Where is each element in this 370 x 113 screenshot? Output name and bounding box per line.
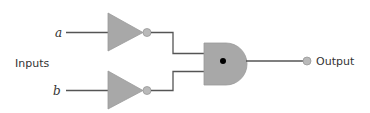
logic-circuit-diagram: a b Inputs Output (0, 0, 370, 113)
not-gate-b (108, 71, 151, 109)
wire-not-a-to-and (151, 33, 205, 54)
output-label: Output (316, 55, 355, 68)
and-gate-body-icon (204, 43, 247, 85)
inputs-label: Inputs (15, 57, 49, 70)
not-gate-a-triangle-icon (108, 13, 143, 51)
and-gate-dot-icon (220, 58, 226, 64)
wire-not-b-to-and (151, 72, 205, 91)
input-a-label: a (55, 26, 62, 40)
not-gate-b-triangle-icon (108, 71, 143, 109)
not-gate-b-bubble-icon (143, 87, 151, 95)
input-b-label: b (53, 84, 61, 98)
not-gate-a (108, 13, 151, 51)
output-terminal-icon (303, 57, 311, 65)
and-gate (204, 43, 247, 85)
not-gate-a-bubble-icon (143, 29, 151, 37)
